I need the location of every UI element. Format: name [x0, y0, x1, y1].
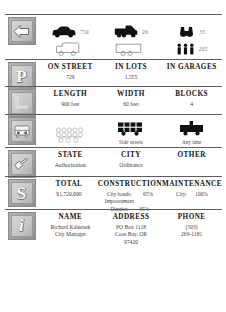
- picto-value-binoculars: 35: [195, 29, 205, 35]
- row-dimensions: LENGTH 900 feet WIDTH 60 feet BLOCKS 4: [5, 86, 222, 114]
- column-header: OTHER: [161, 148, 222, 159]
- column-other: OTHER: [161, 148, 222, 169]
- picto-line-binoculars: 35: [178, 23, 205, 40]
- contact-line: Richard Kaluzsek: [40, 224, 101, 231]
- column-header: TOTAL: [40, 177, 98, 188]
- column-address: ADDRESS PO Box 1118 Coos Bay, OR 97420: [101, 210, 162, 246]
- column-blocks: BLOCKS 4: [161, 87, 222, 108]
- picto-caption: Side streets: [119, 137, 143, 145]
- column-name: NAME Richard Kaluzsek City Manager: [40, 210, 101, 246]
- column-header: STATE: [40, 148, 101, 159]
- column-header: NAME: [40, 210, 101, 221]
- crowd-outline-icon: [55, 127, 85, 143]
- kv-value: 65%: [132, 191, 153, 198]
- picto-line-people: 205: [176, 40, 208, 57]
- column-value: Ordinance: [101, 159, 162, 169]
- picto-slot-on-street: 750: [40, 23, 101, 57]
- fact-sheet: 750: [0, 0, 226, 312]
- column-value: Authorization: [40, 159, 101, 169]
- column-value: $1,720,000: [40, 188, 98, 198]
- column-value-group: (503) 269-1181: [161, 221, 222, 239]
- column-header: WIDTH: [101, 87, 162, 98]
- vehicle-pictograms: 750: [38, 15, 222, 59]
- picto-slot-in-garages: 35 205: [161, 23, 222, 57]
- column-value-group: Richard Kaluzsek City Manager: [40, 221, 101, 239]
- picto-value-car-filled: 750: [76, 29, 89, 35]
- column-header: LENGTH: [40, 87, 101, 98]
- top-margin: [0, 0, 226, 14]
- truck-outline-icon: [115, 42, 143, 56]
- column-header: ADDRESS: [101, 210, 162, 221]
- gavel-glyph: [13, 156, 31, 172]
- cost-table: TOTAL $1,720,000 CONSTRUCTION City bonds…: [38, 177, 222, 209]
- column-city: CITY Ordinance: [101, 148, 162, 169]
- column-value: 60 feet: [101, 98, 162, 108]
- column-header: IN LOTS: [101, 60, 162, 71]
- contact-table: NAME Richard Kaluzsek City Manager ADDRE…: [38, 210, 222, 244]
- row-contact: i NAME Richard Kaluzsek City Manager ADD…: [5, 209, 222, 244]
- header-group: ON STREET 729 IN LOTS 1,555 IN GARAGES: [40, 60, 222, 81]
- car-filled-icon: [52, 25, 76, 38]
- left-arrow-icon[interactable]: [8, 17, 36, 45]
- picto-line-car-outline: [55, 40, 85, 57]
- ruler-corner-glyph: [13, 95, 31, 111]
- header-group: LENGTH 900 feet WIDTH 60 feet BLOCKS 4: [40, 87, 222, 108]
- contact-line: (503): [161, 224, 222, 231]
- people-filled-icon: [176, 43, 195, 55]
- ruler-corner-icon[interactable]: [8, 89, 36, 117]
- column-value: [161, 71, 222, 74]
- header-group: TOTAL $1,720,000 CONSTRUCTION City bonds…: [40, 177, 222, 213]
- icon-cell: [5, 115, 38, 147]
- tile-face: [11, 20, 33, 42]
- picto-line-truck-filled: 26: [114, 23, 148, 40]
- left-arrow-glyph: [13, 24, 30, 39]
- column-in-lots: IN LOTS 1,555: [101, 60, 162, 81]
- header-group: STATE Authorization CITY Ordinance OTHER: [40, 148, 222, 169]
- kv-key: City:: [176, 191, 187, 198]
- row-parking: P ON STREET 729 IN LOTS 1,555 IN GARAGES: [5, 59, 222, 86]
- picto-slot-side-streets: Side streets: [101, 121, 162, 145]
- column-in-garages: IN GARAGES: [161, 60, 222, 81]
- truck-filled-icon: [114, 25, 138, 38]
- picto-value-truck-filled: 26: [138, 29, 148, 35]
- column-value-group: City: 100%: [162, 188, 222, 198]
- icon-cell: S: [5, 177, 38, 209]
- transit-pictograms: Side streets Any time: [38, 115, 222, 147]
- picto-slot-any-time: Any time: [161, 121, 222, 145]
- picto-value-people: 205: [195, 46, 208, 52]
- column-header: BLOCKS: [161, 87, 222, 98]
- information-i-glyph: i: [19, 218, 23, 234]
- information-i-icon[interactable]: i: [8, 212, 36, 240]
- column-header: CITY: [101, 148, 162, 159]
- kv-value: [134, 198, 155, 205]
- bus-front-icon[interactable]: [8, 117, 36, 145]
- column-construction: CONSTRUCTION City bonds: 65% Improvement…: [98, 177, 162, 213]
- contact-line: 269-1181: [161, 231, 222, 238]
- contact-line: PO Box 1118: [101, 224, 162, 231]
- tile-face: [11, 120, 33, 142]
- column-value: 900 feet: [40, 98, 101, 108]
- picto-caption: Any time: [182, 137, 201, 145]
- column-on-street: ON STREET 729: [40, 60, 101, 81]
- bus-grid-icon: [116, 121, 146, 137]
- contact-line: Coos Bay, OR: [101, 231, 162, 238]
- row-legal: STATE Authorization CITY Ordinance OTHER: [5, 147, 222, 176]
- column-value: 1,555: [101, 71, 162, 81]
- tile-face: i: [11, 215, 33, 237]
- kv-key: City bonds:: [107, 191, 132, 198]
- gavel-icon[interactable]: [8, 150, 36, 178]
- kv-pair: City bonds: 65%: [98, 191, 162, 198]
- tile-face: [11, 92, 33, 114]
- binoculars-filled-icon: [178, 26, 195, 38]
- tile-face: P: [11, 65, 33, 87]
- row-vehicle-counts: 750: [5, 14, 222, 59]
- header-group: NAME Richard Kaluzsek City Manager ADDRE…: [40, 210, 222, 246]
- picto-line-truck-outline: [115, 40, 147, 57]
- column-total: TOTAL $1,720,000: [40, 177, 98, 213]
- contact-line: City Manager: [40, 231, 101, 238]
- dollar-sign-icon[interactable]: S: [8, 179, 36, 207]
- column-value-group: PO Box 1118 Coos Bay, OR 97420: [101, 221, 162, 246]
- dollar-sign-glyph: S: [17, 185, 26, 202]
- column-header: CONSTRUCTION: [98, 177, 162, 188]
- column-value: [161, 159, 222, 162]
